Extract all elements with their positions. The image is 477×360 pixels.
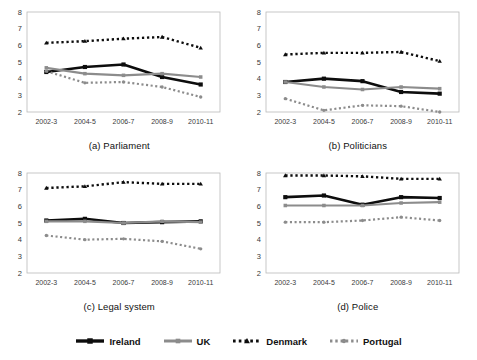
svg-text:5: 5: [256, 58, 260, 67]
svg-text:2006-7: 2006-7: [113, 279, 135, 286]
svg-text:2008-9: 2008-9: [390, 118, 412, 125]
svg-text:8: 8: [18, 8, 22, 17]
chart-police: 23456782002-32004-52006-72008-92010-11: [239, 161, 477, 322]
svg-text:7: 7: [256, 24, 260, 33]
svg-text:2: 2: [18, 269, 22, 278]
svg-text:6: 6: [18, 41, 22, 50]
figure-trust-institutions: 23456782002-32004-52006-72008-92010-11 (…: [0, 0, 477, 360]
svg-text:3: 3: [18, 91, 22, 100]
svg-text:3: 3: [256, 91, 260, 100]
svg-text:2004-5: 2004-5: [313, 118, 335, 125]
panel-politicians: 23456782002-32004-52006-72008-92010-11 (…: [239, 0, 477, 161]
panel-police: 23456782002-32004-52006-72008-92010-11 (…: [239, 161, 477, 322]
chart-legal-system: 23456782002-32004-52006-72008-92010-11: [0, 161, 238, 322]
svg-text:5: 5: [18, 58, 22, 67]
svg-text:5: 5: [18, 219, 22, 228]
legend-label-uk: UK: [197, 336, 211, 347]
legend-key-ireland: [75, 335, 105, 347]
panel-caption-politicians: (b) Politicians: [239, 140, 477, 151]
svg-text:7: 7: [256, 185, 260, 194]
svg-text:2006-7: 2006-7: [351, 118, 373, 125]
svg-text:2010-11: 2010-11: [188, 118, 213, 125]
panel-caption-police: (d) Police: [239, 301, 477, 312]
legend-label-denmark: Denmark: [266, 336, 307, 347]
panel-parliament: 23456782002-32004-52006-72008-92010-11 (…: [0, 0, 239, 161]
chart-legend: Ireland UK Denmark Portugal: [0, 330, 477, 352]
svg-text:2008-9: 2008-9: [390, 279, 412, 286]
svg-text:2010-11: 2010-11: [427, 279, 452, 286]
legend-item-portugal: Portugal: [329, 335, 402, 347]
svg-text:2004-5: 2004-5: [313, 279, 335, 286]
legend-key-denmark: [232, 335, 262, 347]
svg-text:2002-3: 2002-3: [274, 118, 296, 125]
svg-text:4: 4: [18, 74, 22, 83]
svg-text:2008-9: 2008-9: [151, 279, 173, 286]
svg-text:2002-3: 2002-3: [35, 279, 57, 286]
svg-text:2004-5: 2004-5: [74, 118, 96, 125]
legend-item-denmark: Denmark: [232, 335, 307, 347]
svg-text:3: 3: [18, 252, 22, 261]
svg-text:7: 7: [18, 24, 22, 33]
panel-grid: 23456782002-32004-52006-72008-92010-11 (…: [0, 0, 477, 322]
svg-text:2010-11: 2010-11: [188, 279, 213, 286]
svg-text:7: 7: [18, 185, 22, 194]
svg-text:2004-5: 2004-5: [74, 279, 96, 286]
svg-text:8: 8: [18, 169, 22, 178]
svg-text:2: 2: [256, 108, 260, 117]
svg-text:4: 4: [256, 235, 260, 244]
legend-key-uk: [163, 335, 193, 347]
svg-text:8: 8: [256, 169, 260, 178]
svg-text:6: 6: [256, 202, 260, 211]
svg-text:4: 4: [256, 74, 260, 83]
legend-item-uk: UK: [163, 335, 211, 347]
svg-text:2010-11: 2010-11: [427, 118, 452, 125]
legend-label-ireland: Ireland: [109, 336, 140, 347]
svg-text:6: 6: [256, 41, 260, 50]
panel-caption-legal-system: (c) Legal system: [0, 301, 239, 312]
legend-key-portugal: [329, 335, 359, 347]
legend-item-ireland: Ireland: [75, 335, 140, 347]
svg-text:5: 5: [256, 219, 260, 228]
svg-text:2: 2: [256, 269, 260, 278]
panel-caption-parliament: (a) Parliament: [0, 140, 239, 151]
svg-text:2006-7: 2006-7: [113, 118, 135, 125]
svg-text:2002-3: 2002-3: [35, 118, 57, 125]
svg-text:8: 8: [256, 8, 260, 17]
legend-label-portugal: Portugal: [363, 336, 402, 347]
chart-politicians: 23456782002-32004-52006-72008-92010-11: [239, 0, 477, 161]
svg-text:2: 2: [18, 108, 22, 117]
svg-text:2002-3: 2002-3: [274, 279, 296, 286]
svg-text:6: 6: [18, 202, 22, 211]
svg-text:4: 4: [18, 235, 22, 244]
svg-text:2006-7: 2006-7: [351, 279, 373, 286]
panel-legal-system: 23456782002-32004-52006-72008-92010-11 (…: [0, 161, 239, 322]
svg-text:3: 3: [256, 252, 260, 261]
svg-text:2008-9: 2008-9: [151, 118, 173, 125]
chart-parliament: 23456782002-32004-52006-72008-92010-11: [0, 0, 238, 161]
